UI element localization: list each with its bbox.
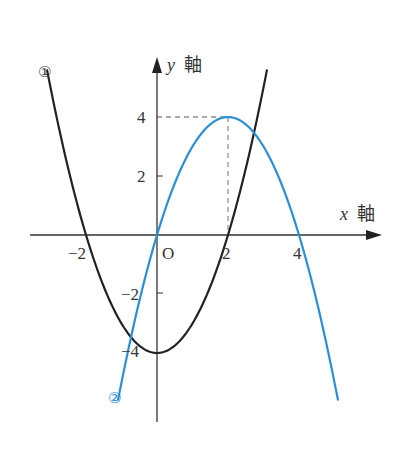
y-axis-variable: y: [165, 55, 175, 75]
origin-label: O: [162, 244, 174, 263]
curve-1-label: ①: [38, 63, 51, 81]
function-graph: −2 O 2 4 4 2 −2 −4 y 軸 x 軸 ① ②: [0, 0, 408, 451]
y-tick-label-minus4: −4: [121, 342, 140, 361]
y-axis-label: y 軸: [165, 55, 202, 75]
x-tick-label-2: 2: [222, 244, 231, 263]
x-tick-label-minus2: −2: [68, 244, 86, 263]
y-tick-label-minus2: −2: [121, 285, 139, 304]
y-axis-word: 軸: [184, 55, 202, 75]
curve-2-label: ②: [108, 389, 121, 407]
y-axis-arrow-icon: [152, 57, 162, 73]
x-tick-label-4: 4: [293, 244, 302, 263]
x-axis-variable: x: [339, 204, 348, 224]
y-tick-label-2: 2: [137, 167, 146, 186]
x-axis-arrow-icon: [366, 230, 382, 240]
x-axis-label: x 軸: [339, 204, 375, 224]
x-axis-word: 軸: [357, 204, 375, 224]
y-tick-label-4: 4: [137, 108, 146, 127]
